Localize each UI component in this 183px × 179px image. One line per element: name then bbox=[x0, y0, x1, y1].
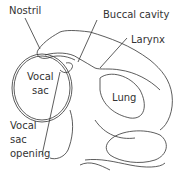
label-buccal-cavity: Buccal cavity bbox=[103, 9, 169, 21]
toad-anatomy-diagram: Nostril Buccal cavity Larynx Vocal sac L… bbox=[0, 0, 183, 179]
label-nostril: Nostril bbox=[9, 5, 41, 17]
label-vocal-sac-1: Vocal bbox=[27, 71, 54, 83]
label-lung: Lung bbox=[112, 92, 136, 104]
label-vocal-sac-opening-1: Vocal bbox=[10, 120, 37, 132]
label-vocal-sac-opening-2: sac bbox=[10, 134, 27, 146]
label-larynx: Larynx bbox=[131, 34, 165, 46]
label-vocal-sac-2: sac bbox=[32, 85, 49, 97]
label-vocal-sac-opening-3: opening bbox=[10, 148, 50, 160]
